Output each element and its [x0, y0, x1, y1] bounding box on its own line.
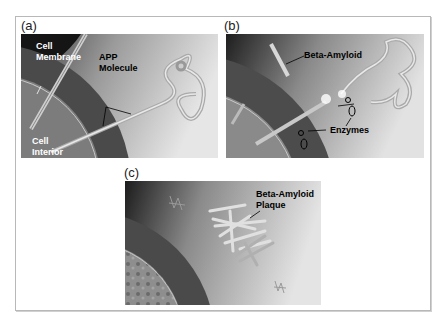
label-app-2: Molecule [99, 63, 138, 73]
label-cell-membrane-2: Membrane [36, 52, 81, 62]
label-cell-interior-1: Cell [32, 136, 49, 146]
panel-b-illustration: Beta-Amyloid Enzymes [226, 34, 424, 158]
label-enzymes: Enzymes [330, 125, 369, 135]
panel-a-label: (a) [21, 18, 37, 33]
label-plaque-2: Plaque [256, 200, 286, 210]
label-plaque-1: Beta-Amyloid [256, 189, 314, 199]
panel-c-illustration: Beta-Amyloid Plaque [125, 181, 321, 305]
label-beta-amyloid: Beta-Amyloid [304, 50, 362, 60]
panel-b-label: (b) [224, 18, 240, 33]
label-app-1: APP [99, 52, 118, 62]
label-cell-membrane-1: Cell [36, 41, 53, 51]
label-cell-interior-2: Interior [32, 147, 64, 157]
panel-c-label: (c) [124, 165, 139, 180]
panel-a-illustration: Cell Membrane APP Molecule Cell Interior [21, 34, 218, 158]
